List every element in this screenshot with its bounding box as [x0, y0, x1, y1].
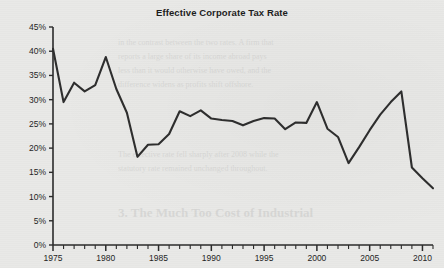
y-tick-label: 15% — [29, 167, 46, 177]
y-tick-label: 25% — [29, 119, 46, 129]
chart-plot: 45%40%35%30%25%20%15%10%5%0% 19751980198… — [0, 0, 444, 268]
x-tick-label: 1985 — [149, 253, 168, 263]
x-tick-label: 1975 — [44, 253, 63, 263]
x-tick-label: 2005 — [360, 253, 379, 263]
y-tick-label: 35% — [29, 70, 46, 80]
x-tick-label: 2000 — [307, 253, 326, 263]
y-tick-label: 20% — [29, 143, 46, 153]
x-tick-label: 1990 — [202, 253, 221, 263]
y-tick-label: 40% — [29, 46, 46, 56]
x-tick-label: 1995 — [255, 253, 274, 263]
series-line — [53, 49, 433, 189]
x-tick-label: 1980 — [96, 253, 115, 263]
y-tick-label: 5% — [34, 216, 47, 226]
y-tick-label: 0% — [34, 240, 47, 250]
axis-lines — [53, 27, 433, 245]
x-tick-label: 2010 — [413, 253, 432, 263]
y-axis: 45%40%35%30%25%20%15%10%5%0% — [29, 22, 53, 250]
x-axis: 19751980198519901995200020052010 — [44, 245, 433, 263]
data-series — [53, 49, 433, 189]
y-tick-label: 45% — [29, 22, 46, 32]
chart-container: Effective Corporate Tax Rate 45%40%35%30… — [0, 0, 444, 268]
y-tick-label: 10% — [29, 192, 46, 202]
y-tick-label: 30% — [29, 95, 46, 105]
